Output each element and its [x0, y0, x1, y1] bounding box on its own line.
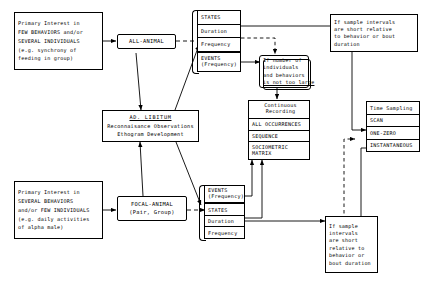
condition-sample-intervals-top-box: If sample intervals are short relative t… [330, 14, 418, 52]
ad-libitum-title: AD. LIBITUM [129, 114, 171, 121]
premise-focal-line4: (e.g. daily activities [12, 216, 105, 223]
premise-all-line2: FEW BEHAVIORS and/or [12, 29, 105, 36]
cond-sample-bottom-line3: are short [326, 237, 358, 244]
premise-all-line3: SEVERAL INDIVIDUALS [12, 38, 105, 45]
premise-all-line4: (e.g. synchrony of [12, 47, 105, 54]
scan-row: SCAN [367, 115, 419, 128]
all-animal-method-box: ALL-ANIMAL [117, 34, 176, 49]
time-sampling-header: Time Sampling [367, 102, 419, 115]
premise-all-line5: feeding in group) [12, 55, 105, 62]
premise-focal-line1: Primary Interest in [12, 189, 105, 196]
premise-focal-line2: SEVERAL BEHAVIORS [12, 198, 105, 205]
focal-animal-sub: (Pair, Group) [129, 209, 174, 216]
cond-sample-bottom-line6: bout duration [326, 260, 371, 267]
cond-sample-top-line4: duration [331, 41, 360, 48]
all-animal-label: ALL-ANIMAL [129, 38, 164, 45]
cond-number-line1: If number of [260, 57, 302, 64]
top-duration-row: Duration [198, 25, 240, 39]
time-sampling-stack: Time Sampling SCAN ONE-ZERO INSTANTANEOU… [366, 101, 420, 152]
bottom-duration-row: Duration [205, 216, 244, 228]
top-events-sub: (Frequency) [201, 62, 237, 68]
top-frequency-row: Frequency [198, 38, 240, 53]
cond-number-line4: is not too large [260, 79, 314, 86]
ad-libitum-line2: Reconnaisance Observations [107, 123, 193, 130]
all-occurrences-row: ALL OCCURRENCES [249, 119, 309, 131]
sociometric-line2: MATRIX [252, 151, 272, 157]
bottom-states-header: STATES [205, 204, 244, 216]
top-events-row: EVENTS (Frequency) [198, 53, 240, 71]
cond-sample-bottom-line2: intervals [326, 230, 358, 237]
continuous-line2: Recording [266, 109, 295, 115]
ad-libitum-box: AD. LIBITUM Reconnaisance Observations E… [102, 110, 199, 142]
top-measures-stack: STATES Duration Frequency EVENTS (Freque… [197, 10, 241, 72]
premise-focal-animal-box: Primary Interest in SEVERAL BEHAVIORS an… [14, 181, 103, 239]
cond-sample-bottom-line5: behavior or [326, 252, 364, 259]
sequence-row: SEQUENCE [249, 131, 309, 143]
one-zero-row: ONE-ZERO [367, 127, 419, 140]
continuous-recording-stack: Continuous Recording ALL OCCURRENCES SEQ… [248, 100, 310, 160]
top-states-header: STATES [198, 11, 240, 25]
premise-all-line1: Primary Interest in [12, 20, 105, 27]
cond-number-line3: and behaviors [260, 72, 305, 79]
flowchart-canvas: Primary Interest in FEW BEHAVIORS and/or… [0, 0, 423, 287]
cond-sample-bottom-line1: If sample [326, 223, 358, 230]
condition-sample-intervals-bottom-box: If sample intervals are short relative t… [325, 216, 378, 273]
premise-focal-line5: of alpha male) [12, 224, 105, 231]
premise-focal-line3: and/or FEW INDIVIDUALS [12, 207, 105, 214]
sociometric-matrix-row: SOCIOMETRIC MATRIX [249, 142, 309, 159]
cond-sample-top-line2: are short relative [331, 26, 392, 33]
instantaneous-row: INSTANTANEOUS [367, 140, 419, 152]
continuous-recording-header: Continuous Recording [249, 101, 309, 119]
bottom-measures-stack: EVENTS (Frequency) STATES Duration Frequ… [204, 185, 245, 239]
condition-number-of-individuals-box: If number of individuals and behaviors i… [259, 55, 309, 88]
cond-sample-top-line1: If sample intervals [331, 19, 395, 26]
bottom-events-sub: (Frequency) [208, 194, 244, 200]
cond-number-line2: individuals [260, 64, 298, 71]
bottom-events-row: EVENTS (Frequency) [205, 186, 244, 204]
focal-animal-method-box: FOCAL-ANIMAL (Pair, Group) [117, 196, 187, 221]
premise-all-animal-box: Primary Interest in FEW BEHAVIORS and/or… [14, 12, 103, 70]
cond-sample-top-line3: to behavior or bout [331, 33, 395, 40]
ad-libitum-line3: Ethogram Development [117, 131, 183, 138]
bottom-frequency-row: Frequency [205, 227, 244, 238]
cond-sample-bottom-line4: relative to [326, 245, 364, 252]
focal-animal-label: FOCAL-ANIMAL [131, 201, 173, 208]
